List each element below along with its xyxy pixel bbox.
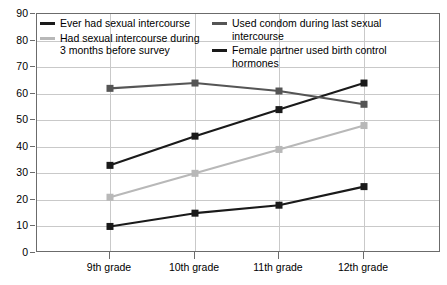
y-axis-tick-mark	[30, 172, 35, 173]
x-axis-tick-group	[36, 252, 440, 260]
series-line	[110, 83, 364, 104]
series-line	[110, 187, 364, 227]
x-axis-tick-label: 10th grade	[169, 261, 219, 273]
legend-column-left: Ever had sexual intercourseHad sexual in…	[40, 17, 212, 59]
x-axis-tick-mark	[278, 252, 279, 259]
y-axis-tick-mark	[30, 93, 35, 94]
data-point-marker	[107, 223, 114, 230]
x-axis-tick-mark	[194, 252, 195, 259]
legend-entry: Used condom during last sexual intercour…	[212, 17, 436, 42]
data-point-marker	[107, 162, 114, 169]
data-point-marker	[276, 88, 283, 95]
x-axis-label-group: 9th grade10th grade11th grade12th grade	[36, 261, 440, 277]
legend-line-swatch-icon	[212, 22, 227, 25]
legend-entry: Ever had sexual intercourse	[40, 17, 212, 30]
y-axis-tick-mark	[30, 199, 35, 200]
y-axis-tick-mark	[30, 13, 35, 14]
x-axis-tick-label: 12th grade	[338, 261, 388, 273]
data-point-marker	[276, 106, 283, 113]
legend-line-swatch-icon	[40, 22, 55, 25]
legend-label: Female partner used birth control hormon…	[232, 44, 436, 69]
legend-line-swatch-icon	[212, 49, 227, 52]
data-point-marker	[361, 183, 368, 190]
legend-label: Ever had sexual intercourse	[60, 17, 190, 30]
data-point-marker	[107, 194, 114, 201]
x-axis-tick-mark	[109, 252, 110, 259]
legend-entry: Had sexual intercourse during 3 months b…	[40, 32, 212, 57]
data-point-marker	[107, 85, 114, 92]
y-axis-tick-mark	[30, 40, 35, 41]
series-group	[107, 80, 368, 169]
legend-entry: Female partner used birth control hormon…	[212, 44, 436, 69]
y-axis-tick-mark	[30, 252, 35, 253]
y-axis-tick-mark	[30, 225, 35, 226]
y-axis-tick-mark	[30, 146, 35, 147]
x-axis-tick-mark	[363, 252, 364, 259]
data-point-marker	[361, 101, 368, 108]
series-group	[107, 183, 368, 230]
y-axis-tick-mark	[30, 119, 35, 120]
x-axis-tick-label: 11th grade	[253, 261, 302, 273]
data-point-marker	[192, 170, 199, 177]
y-axis-tick-mark	[30, 66, 35, 67]
legend-label: Had sexual intercourse during 3 months b…	[60, 32, 200, 57]
y-axis-tick-group	[0, 13, 36, 252]
line-chart: 9080706050403020100 9th grade10th grade1…	[0, 0, 447, 285]
data-point-marker	[192, 210, 199, 217]
data-point-marker	[361, 122, 368, 129]
series-group	[107, 122, 368, 201]
data-point-marker	[192, 133, 199, 140]
data-point-marker	[192, 80, 199, 87]
x-axis-tick-label: 9th grade	[87, 261, 131, 273]
legend-line-swatch-icon	[40, 37, 55, 40]
data-point-marker	[361, 80, 368, 87]
data-point-marker	[276, 146, 283, 153]
series-line	[110, 83, 364, 165]
legend-column-right: Used condom during last sexual intercour…	[212, 17, 436, 71]
series-line	[110, 126, 364, 198]
legend-label: Used condom during last sexual intercour…	[232, 17, 436, 42]
legend: Ever had sexual intercourseHad sexual in…	[40, 17, 436, 61]
data-point-marker	[276, 202, 283, 209]
